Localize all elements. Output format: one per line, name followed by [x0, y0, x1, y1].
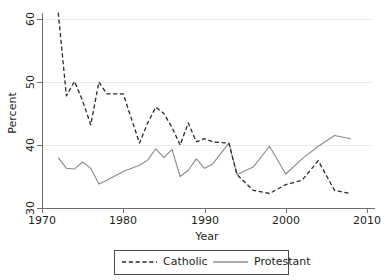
series-line-catholic [58, 13, 351, 194]
y-tick-label-50: 50 [24, 75, 37, 89]
y-axis-title: Percent [6, 92, 19, 134]
y-tick-label-40: 40 [24, 138, 37, 152]
x-axis: 1970 1980 1990 2000 2010 Year [28, 208, 381, 243]
chart-figure: 60 50 40 30 Percent 1970 1980 1990 2000 … [0, 0, 385, 280]
legend-label-protestant: Protestant [254, 255, 311, 268]
legend-label-catholic: Catholic [163, 255, 208, 268]
gridlines [42, 19, 372, 208]
y-tick-label-60: 60 [24, 12, 37, 26]
x-tick-label-1990: 1990 [191, 214, 219, 227]
x-tick-label-2010: 2010 [353, 214, 381, 227]
x-tick-label-1970: 1970 [28, 214, 56, 227]
y-tick-label-30: 30 [24, 201, 37, 215]
x-axis-title: Year [194, 230, 219, 243]
series-line-protestant [58, 136, 351, 185]
plot-series [58, 13, 351, 194]
x-tick-label-1980: 1980 [109, 214, 137, 227]
line-chart-svg: 60 50 40 30 Percent 1970 1980 1990 2000 … [0, 0, 385, 280]
y-axis: 60 50 40 30 Percent [6, 12, 42, 215]
chart-legend: Catholic Protestant [114, 250, 311, 274]
x-tick-label-2000: 2000 [272, 214, 300, 227]
